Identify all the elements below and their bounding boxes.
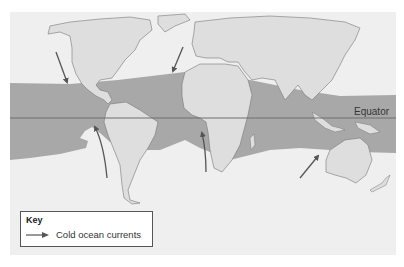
map-key: Key Cold ocean currents	[20, 211, 153, 247]
arrow-icon	[26, 231, 50, 239]
equator-label: Equator	[354, 106, 389, 117]
key-title: Key	[26, 215, 43, 225]
key-item-label: Cold ocean currents	[56, 229, 141, 240]
key-item: Cold ocean currents	[26, 229, 141, 240]
